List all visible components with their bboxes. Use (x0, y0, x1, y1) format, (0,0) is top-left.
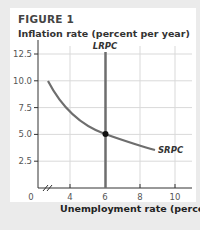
equilibrium-point (103, 131, 109, 137)
y-tick-labels: 12.5 10.0 7.5 5.0 2.5 (13, 49, 32, 166)
chart-plot: 12.5 10.0 7.5 5.0 2.5 0 4 6 8 10 LRPC SR… (0, 0, 200, 230)
svg-text:10: 10 (170, 192, 181, 202)
svg-text:7.5: 7.5 (18, 103, 32, 113)
svg-text:6: 6 (102, 192, 107, 202)
gridlines (38, 46, 192, 188)
svg-text:0: 0 (28, 192, 33, 202)
lrpc-label: LRPC (93, 41, 118, 51)
svg-text:8: 8 (137, 192, 142, 202)
svg-text:10.0: 10.0 (13, 76, 32, 86)
svg-text:2.5: 2.5 (18, 156, 32, 166)
x-tick-labels: 0 4 6 8 10 (28, 192, 180, 202)
axes (34, 40, 192, 188)
svg-text:5.0: 5.0 (18, 129, 32, 139)
srpc-label: SRPC (158, 145, 184, 155)
svg-text:4: 4 (67, 192, 72, 202)
srpc-curve (48, 81, 155, 150)
svg-text:12.5: 12.5 (13, 49, 32, 59)
